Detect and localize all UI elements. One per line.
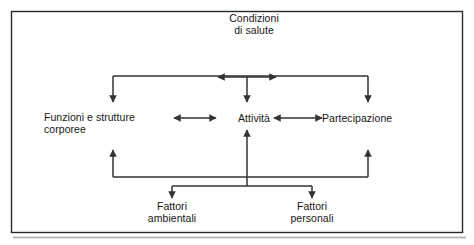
node-body-functions-line1: Funzioni e strutture xyxy=(44,111,135,123)
node-environmental-factors: Fattori ambientali xyxy=(122,200,222,225)
node-environmental-factors-line2: ambientali xyxy=(122,212,222,224)
node-health-condition: Condizioni di salute xyxy=(194,12,314,37)
node-environmental-factors-line1: Fattori xyxy=(157,200,187,212)
node-participation-line1: Partecipazione xyxy=(322,112,392,124)
node-health-condition-line1: Condizioni xyxy=(229,12,279,24)
icf-model-figure: Condizioni di salute Funzioni e struttur… xyxy=(0,0,474,245)
node-personal-factors-line2: personali xyxy=(262,212,362,224)
node-activity: Attività xyxy=(208,112,300,124)
node-activity-line1: Attività xyxy=(238,112,270,124)
node-body-functions: Funzioni e strutture corporee xyxy=(44,111,160,136)
node-health-condition-line2: di salute xyxy=(194,24,314,36)
node-participation: Partecipazione xyxy=(322,112,426,124)
node-personal-factors: Fattori personali xyxy=(262,200,362,225)
node-body-functions-line2: corporee xyxy=(44,123,160,135)
node-personal-factors-line1: Fattori xyxy=(297,200,327,212)
